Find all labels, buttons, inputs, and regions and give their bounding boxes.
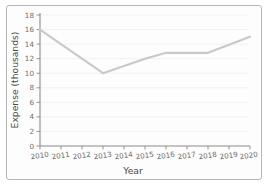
x-tick-label-2017: 2017 (177, 150, 196, 161)
gridlines (40, 15, 248, 131)
expense-series-line (40, 30, 250, 74)
x-tick-label-2019: 2019 (219, 150, 239, 162)
y-tick-label-12: 12 (25, 54, 34, 63)
expense-line-chart: 18 16 14 12 10 8 6 4 2 0 2010 2011 2012 … (7, 6, 261, 179)
x-axis-title: Year (122, 165, 143, 176)
x-tick-label-2011: 2011 (51, 150, 70, 161)
y-tick-label-8: 8 (29, 83, 34, 92)
x-tick-label-2016: 2016 (156, 150, 176, 162)
x-tick-label-2013: 2013 (93, 150, 112, 161)
y-tick-label-4: 4 (29, 112, 34, 121)
x-tick-label-2015: 2015 (135, 150, 154, 161)
x-tick-label-2018: 2018 (198, 150, 218, 162)
y-tick-label-10: 10 (25, 69, 35, 78)
y-tick-label-14: 14 (25, 40, 35, 49)
y-tick-label-6: 6 (29, 98, 34, 107)
y-tick-label-16: 16 (25, 25, 35, 34)
y-tick-label-2: 2 (29, 127, 34, 136)
y-tick-label-18: 18 (25, 11, 35, 20)
x-tick-label-2020: 2020 (239, 150, 259, 162)
x-tick-label-2014: 2014 (114, 150, 134, 162)
x-tick-label-2010: 2010 (30, 150, 50, 162)
chart-frame: 18 16 14 12 10 8 6 4 2 0 2010 2011 2012 … (6, 5, 262, 180)
y-tick-label-0: 0 (29, 142, 34, 151)
x-tick-label-2012: 2012 (72, 150, 91, 161)
y-axis-title: Expense (thousands) (9, 32, 20, 129)
